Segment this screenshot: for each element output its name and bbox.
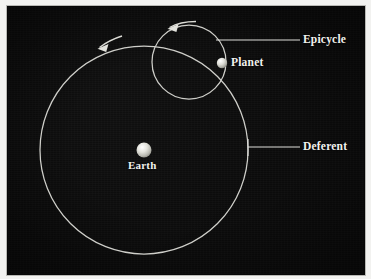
earth-sphere <box>137 143 152 158</box>
epicycle-label: Epicycle <box>303 33 346 45</box>
deferent-label: Deferent <box>303 140 347 152</box>
epicycle-circle <box>152 25 226 99</box>
figure-canvas: Epicycle Deferent Planet Earth <box>0 0 371 279</box>
planet-sphere <box>217 58 227 68</box>
deferent-leader-line <box>248 139 300 156</box>
epicycle-direction-arrow-icon <box>168 22 197 32</box>
planet-label: Planet <box>231 56 264 68</box>
earth-label: Earth <box>128 159 157 171</box>
